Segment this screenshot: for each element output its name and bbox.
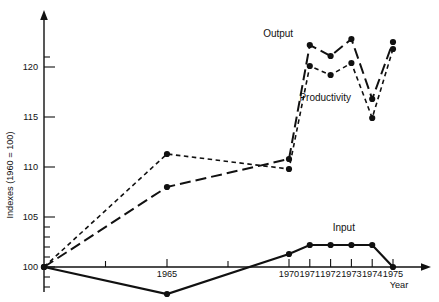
data-point — [369, 242, 375, 248]
x-tick-label: 1973 — [341, 269, 361, 279]
data-point — [390, 264, 396, 270]
data-point — [328, 72, 334, 78]
x-tick-label: 1974 — [362, 269, 382, 279]
y-axis — [40, 10, 48, 292]
y-tick-group — [44, 57, 55, 287]
series-output — [41, 36, 396, 270]
data-point — [348, 60, 354, 66]
y-tick-label: 110 — [23, 162, 38, 172]
productivity-series-label: Productivity — [299, 92, 351, 103]
input-series-label: Input — [333, 222, 355, 233]
data-point — [348, 36, 354, 42]
data-point — [307, 242, 313, 248]
series-path — [44, 49, 393, 267]
data-point — [328, 53, 334, 59]
series-productivity — [41, 46, 396, 270]
x-tick-group — [106, 259, 394, 267]
x-axis-title: Year — [390, 280, 409, 290]
x-tick-label: 1971 — [300, 269, 320, 279]
y-tick-label: 100 — [23, 262, 38, 272]
data-point — [307, 63, 313, 69]
data-point — [369, 96, 375, 102]
series-layer — [41, 36, 396, 297]
x-axis-arrowhead — [421, 263, 431, 271]
x-tick-label: 1965 — [157, 269, 177, 279]
data-point — [328, 242, 334, 248]
y-ticklabel-group: 100105110115120 — [23, 62, 38, 272]
series-label-group: OutputProductivityInput — [263, 28, 355, 233]
chart-svg: 100105110115120 196519701971197219731974… — [0, 0, 439, 302]
chart-container: 100105110115120 196519701971197219731974… — [0, 0, 439, 302]
y-tick-label: 120 — [23, 62, 38, 72]
data-point — [286, 251, 292, 257]
data-point — [348, 242, 354, 248]
data-point — [41, 264, 47, 270]
data-point — [164, 291, 170, 297]
y-tick-label: 105 — [23, 212, 38, 222]
x-tick-label: 1972 — [320, 269, 340, 279]
output-series-label: Output — [263, 28, 293, 39]
data-point — [307, 42, 313, 48]
x-tick-label: 1970 — [279, 269, 299, 279]
data-point — [164, 184, 170, 190]
y-tick-label: 115 — [23, 112, 38, 122]
x-tick-label: 1975 — [383, 269, 403, 279]
data-point — [369, 115, 375, 121]
data-point — [390, 46, 396, 52]
x-ticklabel-group: 1965197019711972197319741975 — [157, 269, 403, 279]
data-point — [390, 39, 396, 45]
y-axis-title: Indexes (1960 = 100) — [5, 131, 15, 218]
data-point — [286, 166, 292, 172]
data-point — [164, 151, 170, 157]
y-axis-arrowhead — [40, 10, 48, 20]
